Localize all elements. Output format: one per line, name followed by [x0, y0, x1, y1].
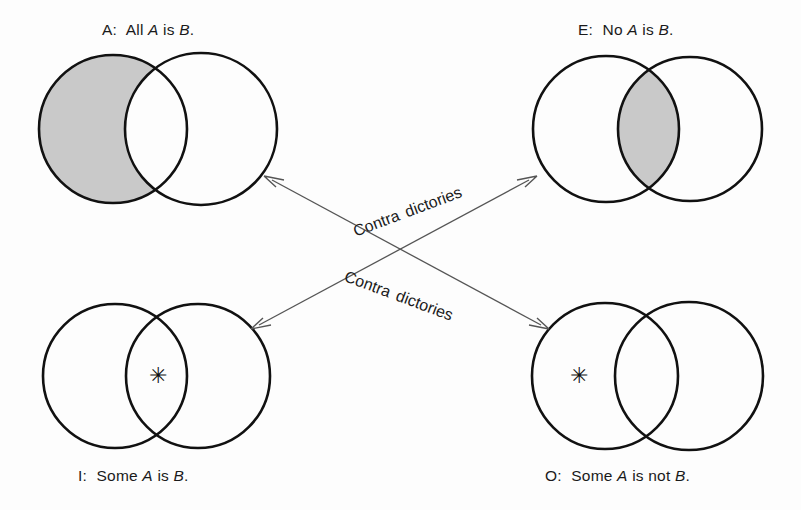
- caption-e-term2: B: [658, 21, 669, 38]
- caption-o-term1: A: [617, 467, 628, 484]
- caption-a: A: All A is B.: [102, 22, 194, 38]
- caption-a-term1: A: [148, 21, 159, 38]
- caption-a-prefix: A:: [102, 21, 117, 38]
- caption-o-prefix: O:: [545, 467, 562, 484]
- caption-a-quantifier: All: [126, 21, 144, 38]
- caption-e-copula: is: [642, 21, 654, 38]
- caption-i-quantifier: Some: [97, 467, 138, 484]
- contradictory-arrow-e-i: [251, 176, 537, 329]
- caption-o-period: .: [685, 467, 690, 484]
- caption-i-prefix: I:: [78, 467, 87, 484]
- diagram-i-circle-right: [126, 304, 270, 448]
- caption-i-term2: B: [174, 467, 185, 484]
- caption-e-term1: A: [627, 21, 638, 38]
- caption-e-period: .: [669, 21, 674, 38]
- caption-i: I: Some A is B.: [78, 468, 189, 484]
- caption-o-quantifier: Some: [571, 467, 612, 484]
- existence-star-o: ✳: [570, 365, 588, 387]
- venn-diagram-canvas: [0, 0, 801, 510]
- caption-e: E: No A is B.: [578, 22, 674, 38]
- venn-figure: A: All A is B. E: No A is B. I: Some A i…: [0, 0, 801, 510]
- caption-e-quantifier: No: [603, 21, 623, 38]
- diagram-a-group: [39, 53, 277, 205]
- diagram-o-circle-right: [615, 302, 763, 450]
- caption-e-prefix: E:: [578, 21, 593, 38]
- caption-a-copula: is: [163, 21, 175, 38]
- caption-i-copula: is: [157, 467, 169, 484]
- diagram-o-group: [532, 302, 763, 450]
- caption-a-period: .: [190, 21, 195, 38]
- diagram-o-circle-left: [532, 303, 678, 449]
- caption-o-term2: B: [675, 467, 686, 484]
- caption-o-copula: is not: [632, 467, 670, 484]
- caption-i-period: .: [184, 467, 189, 484]
- caption-a-term2: B: [179, 21, 190, 38]
- existence-star-i: ✳: [149, 365, 167, 387]
- caption-i-term1: A: [142, 467, 153, 484]
- diagram-e-group: [533, 56, 762, 202]
- caption-o: O: Some A is not B.: [545, 468, 690, 484]
